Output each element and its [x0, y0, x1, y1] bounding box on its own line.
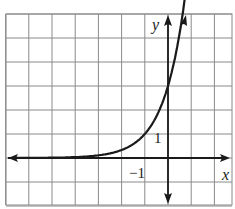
x-axis-label: x [221, 166, 229, 183]
x-tick-label: −1 [129, 165, 145, 181]
y-tick-label: 1 [154, 130, 162, 146]
y-axis-label: y [150, 16, 160, 34]
graph: y x −1 1 [0, 0, 235, 209]
grid-lines [6, 14, 232, 206]
